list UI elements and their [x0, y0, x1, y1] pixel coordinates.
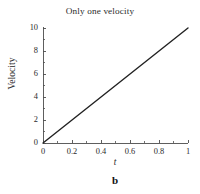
y-tick-label: 2	[20, 115, 38, 124]
y-tick-label: 4	[20, 92, 38, 101]
x-tick-label: 0.8	[147, 147, 171, 156]
panel-caption: b	[0, 174, 200, 186]
x-tick-label: 0.6	[118, 147, 142, 156]
y-tick-label: 10	[20, 23, 38, 32]
y-tick-label: 0	[20, 138, 38, 147]
x-tick-label: 0.2	[60, 147, 84, 156]
y-tick-label: 6	[20, 69, 38, 78]
data-series-group	[43, 28, 188, 143]
figure-panel: Only one velocity 0246810 00.20.40.60.81…	[0, 0, 200, 194]
x-tick-label: 0	[31, 147, 55, 156]
data-line-velocity	[43, 28, 188, 143]
x-tick-label: 1	[176, 147, 200, 156]
y-axis-label: Velocity	[6, 46, 17, 102]
x-tick-label: 0.4	[89, 147, 113, 156]
x-axis-label: t	[0, 157, 200, 167]
y-tick-label: 8	[20, 46, 38, 55]
